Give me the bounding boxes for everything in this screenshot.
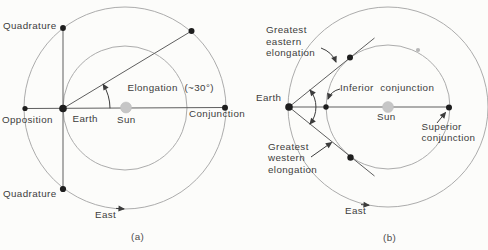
- label-superior-conjunction-2: conjunction: [422, 132, 476, 143]
- greatest-eastern-elongation-dot: [347, 55, 353, 61]
- opposition-dot: [22, 106, 27, 111]
- greatest-western-leader-arrow: [311, 143, 332, 158]
- label-greatest-eastern-2: eastern: [266, 36, 301, 47]
- inner-orbit-direction-dot: [416, 48, 420, 52]
- superior-planet-dot: [189, 28, 195, 34]
- earth-dot-b: [285, 103, 293, 111]
- label-greatest-western-3: elongation: [268, 164, 317, 175]
- diagram-a: Quadrature Opposition Earth Sun Conjunct…: [2, 7, 245, 242]
- label-east-a: East: [95, 209, 116, 220]
- label-conjunction: Conjunction: [189, 108, 245, 119]
- quadrature-top-dot: [60, 25, 66, 31]
- caption-a: (a): [131, 231, 144, 242]
- label-earth-a: Earth: [73, 113, 98, 124]
- earth-planet-sightline: [63, 31, 192, 109]
- diagram-b: Greatest eastern elongation Earth Inferi…: [256, 7, 488, 243]
- label-greatest-eastern-3: elongation: [266, 47, 315, 58]
- label-sun-b: Sun: [377, 111, 396, 122]
- label-inferior-conjunction: Inferior conjunction: [340, 82, 434, 93]
- planet-configurations-figure: Quadrature Opposition Earth Sun Conjunct…: [0, 0, 488, 250]
- earth-dot-a: [59, 105, 67, 113]
- elongation-angle-arc: [103, 84, 110, 108]
- label-quadrature-top: Quadrature: [3, 20, 57, 31]
- label-quadrature-bottom: Quadrature: [3, 188, 57, 199]
- label-sun-a: Sun: [117, 114, 136, 125]
- label-greatest-western-1: Greatest: [268, 141, 309, 152]
- greatest-eastern-leader-arrow: [321, 48, 336, 62]
- label-opposition: Opposition: [2, 114, 53, 125]
- figure-svg: Quadrature Opposition Earth Sun Conjunct…: [0, 0, 488, 250]
- label-greatest-eastern-1: Greatest: [266, 24, 307, 35]
- quadrature-bottom-dot: [60, 186, 66, 192]
- caption-b: (b): [383, 232, 396, 243]
- greatest-western-elongation-dot: [347, 154, 353, 160]
- label-east-b: East: [345, 205, 366, 216]
- label-greatest-western-2: western: [267, 152, 305, 163]
- inferior-conjunction-dot: [323, 104, 328, 109]
- label-earth-b: Earth: [256, 92, 281, 103]
- sun-a: [121, 102, 132, 113]
- inferior-conjunction-leader-arrow: [328, 89, 340, 99]
- superior-conjunction-dot: [446, 105, 452, 111]
- label-elongation: Elongation (~30°): [128, 82, 214, 93]
- label-superior-conjunction-1: Superior: [422, 121, 463, 132]
- east-direction-arrow-a: [116, 208, 124, 209]
